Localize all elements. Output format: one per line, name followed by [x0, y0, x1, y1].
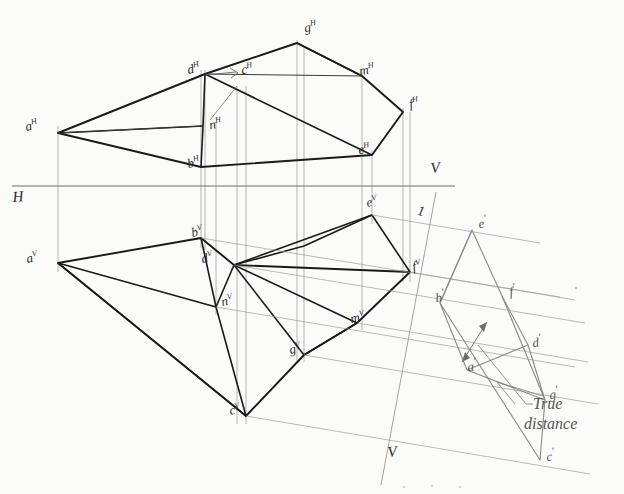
point-label-c-horizontal: cH	[240, 61, 254, 76]
point-label-c-vertical: cV	[228, 402, 241, 417]
projector-lines	[58, 40, 410, 424]
point-label-b-horizontal: bH	[186, 154, 201, 170]
point-label-e-horizontal: eH	[357, 141, 371, 156]
point-label-a-horizontal: aH	[24, 117, 39, 133]
point-label-g-vertical: gV	[288, 341, 302, 356]
reference-label-v: V	[430, 160, 440, 176]
point-label-a-vertical: aV	[25, 250, 39, 265]
stray-dot	[575, 287, 578, 290]
point-label-n-horizontal: nH	[208, 116, 222, 131]
point-label-b-vertical: bV	[190, 224, 204, 239]
horizontal-view-internal-edges	[58, 43, 372, 167]
point-label-n-vertical: nV	[220, 293, 234, 308]
true-distance-annotation-line1: True	[533, 395, 562, 413]
horizontal-view-outline	[58, 43, 403, 167]
point-label-f-horizontal: fH	[408, 95, 420, 110]
reference-label-h: H	[12, 189, 24, 205]
point-label-m-horizontal: mH	[358, 61, 375, 77]
point-label-b-auxiliary: b'	[434, 287, 445, 304]
point-label-f-vertical: fV	[411, 258, 422, 273]
auxiliary-reference-line	[381, 192, 436, 485]
reference-label-aux-bottom: V	[387, 444, 397, 460]
true-distance-annotation-line2: distance	[524, 415, 577, 433]
drawing-page: H V 1 V aH dH cH gH mH fH eH nH bH aV bV…	[0, 0, 624, 494]
point-label-g-horizontal: gH	[303, 19, 317, 34]
point-label-d-vertical: dV	[200, 250, 214, 265]
point-label-a-auxiliary: a'	[466, 356, 477, 373]
point-label-e-vertical: eV	[365, 194, 378, 209]
scan-artifacts	[403, 485, 461, 488]
point-label-d-auxiliary: d'	[531, 332, 542, 349]
point-label-d-horizontal: dH	[186, 60, 201, 76]
